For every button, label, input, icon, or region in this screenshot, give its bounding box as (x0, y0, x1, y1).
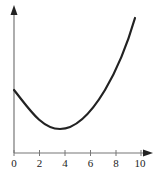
x-tick-label: 2 (37, 157, 43, 169)
y-axis-arrow-icon (11, 5, 18, 15)
x-tick-label: 8 (113, 157, 119, 169)
x-tick-label: 6 (88, 157, 94, 169)
x-axis-arrow-icon (143, 150, 153, 157)
chart: 0 2 4 6 8 10 (0, 0, 156, 169)
data-curve (14, 18, 135, 129)
x-tick-label: 10 (135, 157, 147, 169)
x-tick-label: 0 (11, 157, 17, 169)
x-tick-label: 4 (62, 157, 68, 169)
